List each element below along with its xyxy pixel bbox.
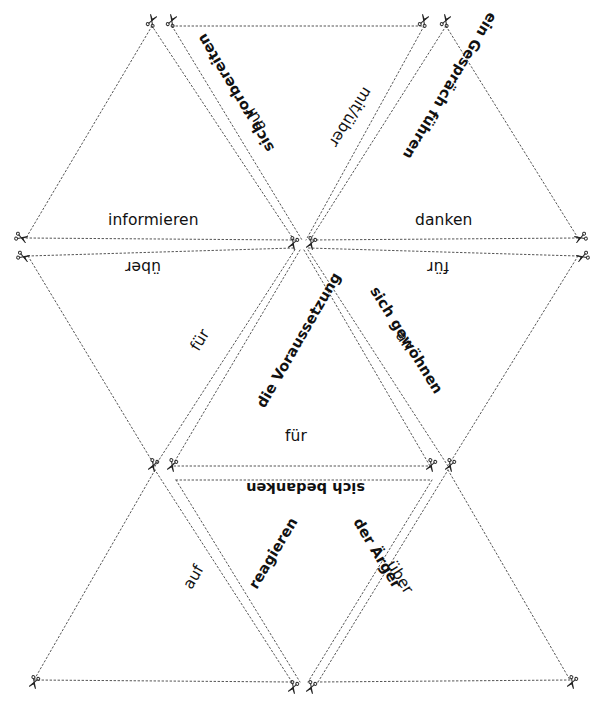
label-ueber-left: über	[125, 258, 161, 276]
label-fuer-center: für	[285, 427, 307, 445]
scissors-icon	[444, 458, 456, 472]
label-fuer-right: für	[427, 258, 449, 276]
scissors-icon	[305, 680, 317, 694]
scissors-icon	[287, 680, 299, 694]
label-informieren: informieren	[108, 211, 199, 229]
scissors-icon	[28, 675, 40, 689]
scissors-icon	[425, 458, 437, 472]
scissors-icon	[305, 236, 317, 250]
cut-markers	[14, 14, 590, 694]
cut-lines	[26, 26, 578, 682]
scissors-icon	[166, 458, 178, 472]
label-danken: danken	[415, 211, 473, 229]
label-sich-bedanken: sich bedanken	[246, 480, 365, 496]
scissors-icon	[147, 458, 159, 472]
puzzle-line-diagram	[0, 0, 602, 710]
scissors-icon	[574, 232, 588, 244]
worksheet-canvas: informieren sich vorbereiten auf danken …	[0, 0, 602, 710]
